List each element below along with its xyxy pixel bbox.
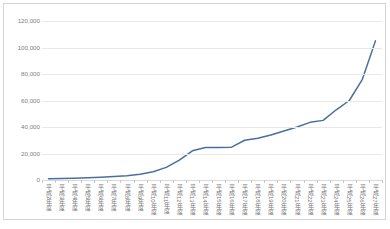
x-axis-tick	[81, 180, 82, 183]
x-axis-tick-label: 平成4年度	[72, 184, 78, 211]
y-axis-tick-label: 60,000	[4, 97, 40, 103]
x-axis-tick	[369, 180, 370, 183]
x-axis-tick	[290, 180, 291, 183]
x-axis-tick-label: 平成18年度	[255, 184, 261, 215]
y-axis-tick-label: 0	[4, 177, 40, 183]
x-axis-tick-label: 平成10年度	[150, 184, 156, 215]
x-axis-tick	[199, 180, 200, 183]
x-axis-tick	[160, 180, 161, 183]
y-axis-tick-label: 100,000	[4, 44, 40, 50]
y-axis-label-group: 120,000100,00080,00060,00040,00020,0000	[4, 21, 40, 180]
x-axis-tick	[277, 180, 278, 183]
gridline	[42, 48, 382, 49]
x-axis-tick-label: 平成16年度	[229, 184, 235, 215]
series-polyline	[49, 41, 376, 179]
x-axis-tick	[68, 180, 69, 183]
x-axis-tick-label: 平成24年度	[333, 184, 339, 215]
x-axis-tick-label: 平成22年度	[307, 184, 313, 215]
gridline	[42, 101, 382, 102]
x-axis-tick	[55, 180, 56, 183]
x-axis-tick-label: 平成14年度	[202, 184, 208, 215]
x-axis-tick-label: 平成26年度	[359, 184, 365, 215]
x-axis-tick	[212, 180, 213, 183]
y-axis-tick-label: 120,000	[4, 18, 40, 24]
x-axis-tick-label: 平成17年度	[242, 184, 248, 215]
gridline	[42, 154, 382, 155]
x-axis-tick-label: 平成20年度	[281, 184, 287, 215]
x-axis-tick	[264, 180, 265, 183]
gridline	[42, 74, 382, 75]
x-axis-tick-label: 平成11年度	[163, 184, 169, 214]
x-axis-tick-label: 平成13年度	[189, 184, 195, 215]
x-axis-tick	[343, 180, 344, 183]
x-axis-tick	[120, 180, 121, 183]
x-axis-tick-label: 平成7年度	[111, 184, 117, 211]
x-axis-label-group: 平成2年度平成3年度平成4年度平成5年度平成6年度平成7年度平成8年度平成9年度…	[42, 184, 382, 224]
x-axis-tick-label: 平成3年度	[59, 184, 65, 211]
plot-area	[42, 21, 382, 180]
x-axis-tick-label: 平成21年度	[294, 184, 300, 215]
x-axis-tick	[42, 180, 43, 183]
x-axis-tick	[94, 180, 95, 183]
chart-container: 120,000100,00080,00060,00040,00020,0000 …	[3, 3, 386, 220]
x-axis-tick	[225, 180, 226, 183]
x-axis-tick	[304, 180, 305, 183]
x-axis-tick	[330, 180, 331, 183]
gridline	[42, 21, 382, 22]
x-axis-tick	[251, 180, 252, 183]
y-axis-tick-label: 80,000	[4, 71, 40, 77]
x-axis-tick-label: 平成5年度	[85, 184, 91, 211]
x-axis-tick	[317, 180, 318, 183]
x-axis-tick	[173, 180, 174, 183]
x-axis-tick-label: 平成19年度	[268, 184, 274, 215]
x-axis-tick	[186, 180, 187, 183]
x-axis-tick-label: 平成25年度	[346, 184, 352, 215]
x-axis-tick-label: 平成2年度	[46, 184, 52, 211]
x-axis-tick-label: 平成12年度	[176, 184, 182, 215]
x-axis-tick	[147, 180, 148, 183]
x-axis-tick-label: 平成27年度	[372, 184, 378, 215]
x-axis-tick-label: 平成15年度	[216, 184, 222, 215]
x-axis-tick-label: 平成6年度	[98, 184, 104, 211]
x-axis-tick-label: 平成9年度	[137, 184, 143, 211]
x-axis-tick	[356, 180, 357, 183]
x-axis-tick	[107, 180, 108, 183]
gridline	[42, 127, 382, 128]
x-axis-tick	[134, 180, 135, 183]
x-axis-tick-label: 平成8年度	[124, 184, 130, 211]
x-axis-tick	[382, 180, 383, 183]
y-axis-tick-label: 40,000	[4, 124, 40, 130]
x-axis-tick	[238, 180, 239, 183]
x-axis-tick-label: 平成23年度	[320, 184, 326, 215]
y-axis-tick-label: 20,000	[4, 150, 40, 156]
